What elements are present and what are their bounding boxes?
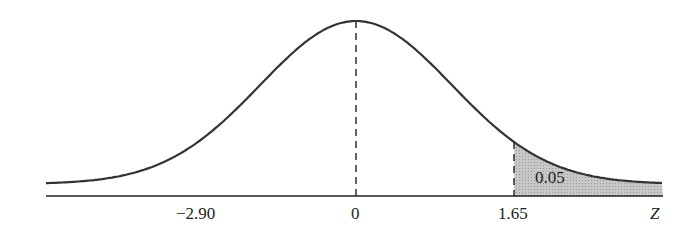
normal-curve-figure [0, 0, 697, 240]
tick-label-neg-2-90: −2.90 [176, 204, 215, 224]
tick-label-zero: 0 [351, 204, 360, 224]
tick-label-1-65: 1.65 [498, 204, 528, 224]
tail-area-label: 0.05 [535, 168, 565, 188]
normal-curve [46, 21, 662, 183]
axis-label-z: Z [650, 204, 659, 224]
